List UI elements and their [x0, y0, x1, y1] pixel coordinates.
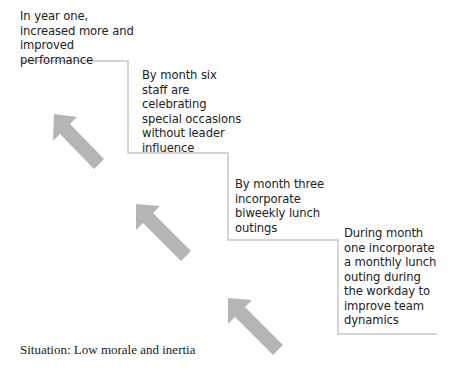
- situation-label: Situation: Low morale and inertia: [20, 342, 195, 358]
- step-month-one-text: During month one incorporate a monthly l…: [344, 226, 442, 328]
- staircase-diagram: In year one, increased more and improved…: [0, 0, 459, 373]
- step-month-three-text: By month three incorporate biweekly lunc…: [235, 177, 335, 235]
- step-month-six-text: By month six staff are celebrating speci…: [142, 68, 244, 155]
- step-year-one-text: In year one, increased more and improved…: [20, 9, 138, 67]
